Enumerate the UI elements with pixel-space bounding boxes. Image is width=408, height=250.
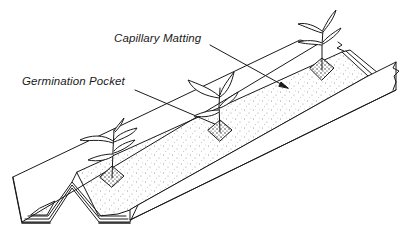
label-capillary-matting: Capillary Matting [114, 32, 201, 44]
gutter-channel-diagram [0, 0, 408, 250]
label-germination-pocket: Germination Pocket [22, 75, 125, 87]
